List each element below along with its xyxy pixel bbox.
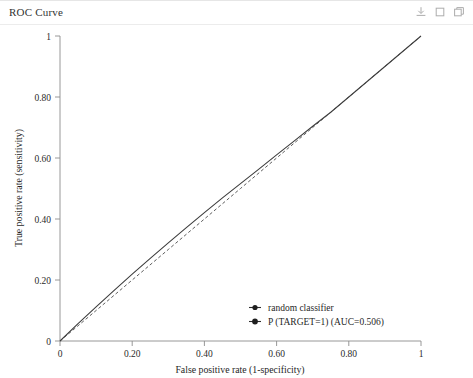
x-tick-label: 1 <box>419 349 424 359</box>
legend-item-model: P (TARGET=1) (AUC=0.506) <box>249 317 384 328</box>
x-tick-label: 0.20 <box>124 349 141 359</box>
y-tick-label: 1 <box>46 32 51 42</box>
legend-item-random: random classifier <box>249 303 335 313</box>
y-tick-label: 0.80 <box>34 93 51 103</box>
y-tick-label: 0 <box>46 337 51 347</box>
x-tick-label: 0.40 <box>196 349 213 359</box>
roc-curve-panel: ROC Curve <box>0 0 473 378</box>
x-axis-title: False positive rate (1-specificity) <box>175 364 304 376</box>
roc-chart-svg: 1 0.80 0.60 0.40 0.20 0 0 0.20 0.40 0. <box>0 25 473 378</box>
y-tick-label: 0.20 <box>34 276 51 286</box>
duplicate-icon[interactable] <box>453 6 465 18</box>
plot-area: 1 0.80 0.60 0.40 0.20 0 0 0.20 0.40 0. <box>0 25 473 378</box>
download-icon[interactable] <box>415 6 427 18</box>
y-tick-label: 0.60 <box>34 154 51 164</box>
x-axis-ticks <box>60 341 421 346</box>
panel-titlebar: ROC Curve <box>0 1 473 25</box>
y-axis-tick-labels: 1 0.80 0.60 0.40 0.20 0 <box>34 32 51 347</box>
panel-toolbar <box>415 6 465 18</box>
x-tick-label: 0.80 <box>340 349 357 359</box>
x-tick-label: 0 <box>58 349 63 359</box>
copy-icon[interactable] <box>434 6 446 18</box>
chart-legend: random classifier P (TARGET=1) (AUC=0.50… <box>249 303 384 328</box>
page-title: ROC Curve <box>9 6 63 18</box>
y-axis-title: True positive rate (sensitivity) <box>13 129 25 247</box>
x-tick-label: 0.60 <box>268 349 285 359</box>
x-axis-tick-labels: 0 0.20 0.40 0.60 0.80 1 <box>58 349 424 359</box>
legend-label: random classifier <box>268 303 335 313</box>
y-tick-label: 0.40 <box>34 215 51 225</box>
legend-label: P (TARGET=1) (AUC=0.506) <box>268 317 384 328</box>
y-axis-ticks <box>55 36 60 341</box>
